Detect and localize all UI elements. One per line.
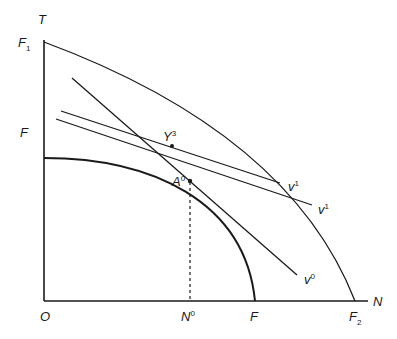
point-y3 — [170, 144, 174, 148]
label-a0-main: A — [172, 174, 181, 189]
label-f2-main: F — [349, 309, 357, 324]
label-y3: Y3 — [163, 130, 176, 143]
point-a0 — [188, 179, 192, 183]
label-n0-main: N — [181, 309, 190, 324]
label-a0: A0 — [172, 175, 185, 188]
label-y3-main: Y — [163, 129, 172, 144]
label-origin: O — [40, 310, 50, 323]
label-v1b-sup: 1 — [325, 202, 329, 211]
label-f-x: F — [250, 310, 258, 323]
label-t-axis: T — [38, 13, 46, 26]
label-v1a-sup: 1 — [295, 179, 299, 188]
label-a0-sup: 0 — [181, 174, 185, 183]
label-n0-sup: 0 — [190, 309, 194, 318]
label-v0: v0 — [304, 273, 315, 286]
label-f2: F2 — [349, 310, 361, 327]
label-v1-a: v1 — [288, 180, 299, 193]
label-f-y: F — [20, 126, 28, 139]
inner-frontier-curve — [44, 158, 255, 301]
label-f1-main: F — [18, 35, 26, 50]
label-f1: F1 — [18, 36, 30, 53]
label-v1-b: v1 — [318, 203, 329, 216]
label-f2-sub: 2 — [357, 318, 361, 327]
label-n-axis: N — [373, 295, 382, 308]
outer-frontier-curve — [44, 42, 355, 301]
label-v0-sup: 0 — [311, 272, 315, 281]
label-f1-sub: 1 — [26, 44, 30, 53]
label-y3-sup: 3 — [172, 129, 176, 138]
label-n0: N0 — [181, 310, 195, 323]
diagram-canvas — [0, 0, 397, 339]
